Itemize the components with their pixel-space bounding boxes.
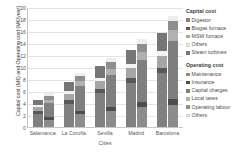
legend-label: Others <box>192 113 208 118</box>
bar-segment <box>126 83 136 127</box>
bar-segment <box>168 30 178 41</box>
x-axis-title: Cities <box>27 140 183 146</box>
legend-items-operating-cost: MaintenanceInsuranceCapital chargesLocal… <box>186 70 244 119</box>
legend-label: Others <box>192 42 208 47</box>
y-axis-tick-16: 16 <box>12 29 26 35</box>
legend-label: Biogas furnace <box>192 26 227 31</box>
bar-segment <box>126 68 136 78</box>
bar[interactable] <box>75 73 85 127</box>
legend-label: Capital charges <box>192 88 228 93</box>
bar-segment <box>64 104 74 127</box>
legend-item[interactable]: Steam turbines <box>186 49 244 57</box>
legend-swatch-icon <box>186 89 190 93</box>
legend-group-capital-cost: Capital cost DigestorBiogas furnaceMSW f… <box>186 8 244 57</box>
bar-group <box>59 8 90 127</box>
bar-segment <box>168 41 178 99</box>
legend-swatch-icon <box>186 43 190 47</box>
bar-segment <box>75 86 85 111</box>
bar[interactable] <box>44 93 54 127</box>
legend-swatch-icon <box>186 35 190 39</box>
bar-segment <box>126 50 136 64</box>
bar-segment <box>137 60 147 102</box>
chart-legend: Capital cost DigestorBiogas furnaceMSW f… <box>186 8 244 124</box>
legend-swatch-icon <box>186 73 190 77</box>
bar[interactable] <box>33 100 43 127</box>
bar-segment <box>95 93 105 127</box>
bar-group <box>90 8 121 127</box>
legend-item[interactable]: Digestor <box>186 16 244 24</box>
x-axis-tick-barcelona: Barcelona <box>152 130 183 136</box>
legend-item[interactable]: Local taxes <box>186 95 244 103</box>
bar-segment <box>44 103 54 117</box>
bar-segment <box>64 82 74 91</box>
bar-segment <box>106 75 116 107</box>
y-axis-tick-8: 8 <box>12 77 26 83</box>
y-axis-tick-18: 18 <box>12 17 26 23</box>
bar[interactable] <box>137 39 147 127</box>
legend-item[interactable]: Others <box>186 111 244 119</box>
legend-label: Steam turbines <box>192 50 227 55</box>
bar-segment <box>157 73 167 127</box>
y-axis-tick-14: 14 <box>12 41 26 47</box>
bar[interactable] <box>64 82 74 127</box>
bar-segment <box>137 107 147 127</box>
bar-segment <box>33 114 43 127</box>
legend-swatch-icon <box>186 114 190 118</box>
legend-item[interactable]: Operating labour <box>186 103 244 111</box>
plot-area <box>27 8 183 128</box>
legend-group-operating-cost: Operating cost MaintenanceInsuranceCapit… <box>186 62 244 119</box>
legend-swatch-icon <box>186 81 190 85</box>
legend-label: Local taxes <box>192 96 218 101</box>
x-axis-tick-sevilla: Sevilla <box>89 130 120 136</box>
legend-label: Insurance <box>192 80 215 85</box>
bar-segment <box>106 111 116 127</box>
legend-swatch-icon <box>186 18 190 22</box>
legend-item[interactable]: Maintenance <box>186 70 244 78</box>
legend-items-capital-cost: DigestorBiogas furnaceMSW furnaceOthersS… <box>186 16 244 57</box>
y-axis-tick-0: 0 <box>12 125 26 131</box>
legend-item[interactable]: Insurance <box>186 79 244 87</box>
y-axis-tick-10: 10 <box>12 65 26 71</box>
bar-group <box>28 8 59 127</box>
legend-item[interactable]: Biogas furnace <box>186 24 244 32</box>
legend-item[interactable]: Others <box>186 41 244 49</box>
bar-segment <box>137 44 147 52</box>
bar-segment <box>95 66 105 78</box>
legend-swatch-icon <box>186 97 190 101</box>
bar-groups <box>28 8 183 127</box>
legend-title-capital-cost: Capital cost <box>186 8 244 14</box>
x-axis-tick-madrid: Madrid <box>121 130 152 136</box>
bar-segment <box>168 105 178 127</box>
legend-item[interactable]: Capital charges <box>186 87 244 95</box>
bar[interactable] <box>126 50 136 127</box>
y-axis-tick-labels: 02468101214161820 <box>12 8 26 128</box>
bar-segment <box>75 114 85 127</box>
legend-label: Operating labour <box>192 105 231 110</box>
bar-group <box>121 8 152 127</box>
legend-label: Maintenance <box>192 72 222 77</box>
bar-segment <box>95 81 105 89</box>
bar-segment <box>157 56 167 67</box>
bar-segment <box>168 21 178 31</box>
bar[interactable] <box>157 33 167 127</box>
chart-figure: Capital cost (M€) and Operating cost (M€… <box>0 0 244 163</box>
bar[interactable] <box>168 16 178 127</box>
bar-segment <box>106 62 116 69</box>
legend-item[interactable]: MSW furnace <box>186 33 244 41</box>
x-axis-tick-salamanca: Salamanca <box>27 130 58 136</box>
bar[interactable] <box>106 58 116 127</box>
y-axis-tick-20: 20 <box>12 5 26 11</box>
bar[interactable] <box>95 66 105 127</box>
y-axis-tick-6: 6 <box>12 89 26 95</box>
legend-swatch-icon <box>186 27 190 31</box>
legend-swatch-icon <box>186 105 190 109</box>
legend-swatch-icon <box>186 51 190 55</box>
y-axis-tick-2: 2 <box>12 113 26 119</box>
bar-segment <box>137 52 147 60</box>
x-axis-tick-labels: SalamancaLa CoruñaSevillaMadridBarcelona <box>27 130 183 136</box>
legend-label: Digestor <box>192 18 211 23</box>
y-axis-tick-12: 12 <box>12 53 26 59</box>
bar-group <box>152 8 183 127</box>
y-axis-tick-4: 4 <box>12 101 26 107</box>
bar-segment <box>44 120 54 127</box>
